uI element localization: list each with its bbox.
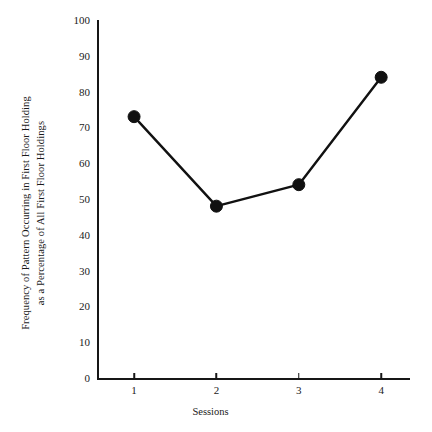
y-tick-label: 100	[74, 14, 91, 26]
data-point-marker	[128, 111, 140, 123]
y-tick-label: 0	[85, 372, 91, 384]
y-tick-label: 40	[79, 229, 90, 241]
y-axis-title-line-1: Frequency of Pattern Occurring in First …	[18, 96, 33, 330]
y-tick-label: 10	[79, 336, 90, 348]
y-tick-label: 20	[79, 300, 90, 312]
data-series-layer	[97, 20, 410, 380]
y-tick-label: 80	[79, 86, 90, 98]
x-tick-label: 1	[131, 384, 137, 396]
y-axis-title-line-2: as a Percentage of All First Floor Holdi…	[33, 96, 48, 330]
y-tick-label: 50	[79, 193, 90, 205]
x-tick-label: 4	[378, 384, 384, 396]
x-axis-title: Sessions	[97, 406, 410, 417]
plot-area: 0102030405060708090100 1234 Sessions	[97, 20, 410, 380]
x-tick-label: 3	[296, 384, 302, 396]
data-point-marker	[293, 179, 305, 191]
x-axis-title-text: Sessions	[192, 406, 228, 417]
series-markers	[128, 71, 387, 212]
data-point-marker	[210, 200, 222, 212]
y-axis-title: Frequency of Pattern Occurring in First …	[0, 0, 66, 432]
series-line	[134, 77, 381, 206]
y-tick-label: 90	[79, 50, 90, 62]
y-tick-label: 70	[79, 121, 90, 133]
line-chart-figure: Frequency of Pattern Occurring in First …	[0, 0, 432, 432]
x-tick-label: 2	[214, 384, 220, 396]
y-tick-label: 60	[79, 157, 90, 169]
data-point-marker	[375, 71, 387, 83]
y-tick-label: 30	[79, 265, 90, 277]
